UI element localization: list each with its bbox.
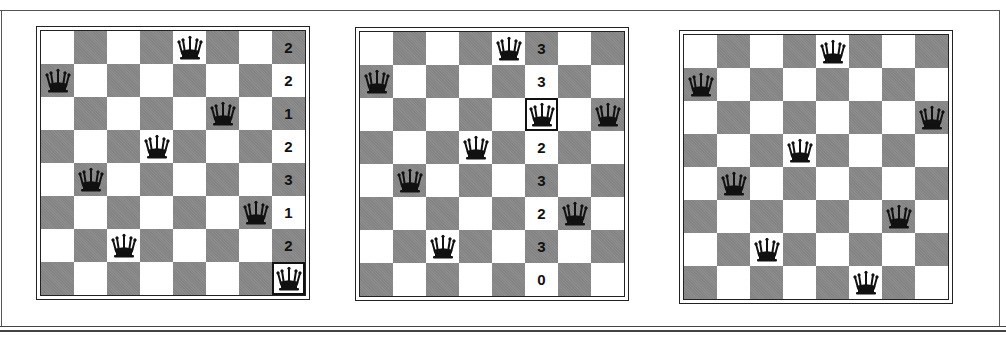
board-square [882, 68, 915, 101]
board-square [107, 163, 140, 196]
board-square [41, 163, 74, 196]
queen-icon [852, 269, 880, 297]
board-square [393, 230, 426, 263]
board-square [882, 233, 915, 266]
board-square [717, 101, 750, 134]
board-square [816, 233, 849, 266]
board-square [882, 200, 915, 233]
board-square [393, 197, 426, 230]
board-square [591, 263, 624, 296]
board-square [591, 131, 624, 164]
board-square [140, 262, 173, 295]
board-square [173, 196, 206, 229]
board-square [783, 167, 816, 200]
board-square [459, 32, 492, 65]
conflict-count: 3 [284, 171, 292, 188]
queen-icon [462, 134, 490, 162]
board-square [558, 131, 591, 164]
board-square [173, 64, 206, 97]
board-square [206, 163, 239, 196]
board-square [41, 64, 74, 97]
board-square [393, 98, 426, 131]
board-square [849, 134, 882, 167]
queen-icon [176, 34, 204, 62]
board-square [140, 97, 173, 130]
board-square: 2 [525, 131, 558, 164]
conflict-count: 2 [537, 205, 545, 222]
conflict-count: 2 [284, 138, 292, 155]
board-square [140, 130, 173, 163]
queen-icon [495, 35, 523, 63]
board-square [816, 101, 849, 134]
board-square [74, 97, 107, 130]
conflict-count: 2 [537, 139, 545, 156]
board-square [558, 65, 591, 98]
board-square [816, 68, 849, 101]
board-square [459, 65, 492, 98]
board-square [591, 164, 624, 197]
conflict-count: 1 [284, 105, 292, 122]
board-square [206, 196, 239, 229]
conflict-count: 3 [537, 238, 545, 255]
board-square [426, 197, 459, 230]
board-square [107, 229, 140, 262]
board-square [492, 263, 525, 296]
board-square [107, 64, 140, 97]
board-square [882, 134, 915, 167]
board-square [717, 167, 750, 200]
board-square [717, 233, 750, 266]
board-square [591, 98, 624, 131]
queen-icon [918, 104, 946, 132]
board-square [849, 233, 882, 266]
board-square: 3 [272, 163, 305, 196]
board-square [173, 97, 206, 130]
board-square [816, 35, 849, 68]
board-square [915, 134, 948, 167]
board-square [107, 31, 140, 64]
board-square [750, 68, 783, 101]
board-square [816, 134, 849, 167]
board-square [492, 32, 525, 65]
board-square [426, 98, 459, 131]
board-square [684, 233, 717, 266]
highlighted-square [272, 262, 305, 295]
board-square [74, 163, 107, 196]
board-square [915, 167, 948, 200]
chessboard-2: 3323230 [355, 27, 629, 301]
board-square: 2 [525, 197, 558, 230]
board-square [74, 31, 107, 64]
board-square [173, 31, 206, 64]
board-square [750, 167, 783, 200]
board-square: 3 [525, 32, 558, 65]
board-square [816, 200, 849, 233]
board-square [140, 64, 173, 97]
chessboard-grid: 3323230 [359, 31, 625, 297]
queen-icon [753, 236, 781, 264]
board-square [140, 31, 173, 64]
figure-frame-top [0, 10, 1000, 11]
board-square [558, 32, 591, 65]
board-square [107, 262, 140, 295]
queen-icon [786, 137, 814, 165]
board-square [360, 263, 393, 296]
board-square [426, 65, 459, 98]
board-square [849, 101, 882, 134]
board-square [426, 263, 459, 296]
conflict-count: 1 [284, 204, 292, 221]
board-square [915, 35, 948, 68]
board-square [74, 229, 107, 262]
board-square [558, 98, 591, 131]
board-square: 2 [272, 31, 305, 64]
board-square [41, 262, 74, 295]
board-square [750, 200, 783, 233]
board-square [107, 97, 140, 130]
board-square [849, 68, 882, 101]
queen-icon [885, 203, 913, 231]
board-square [558, 230, 591, 263]
queen-icon [429, 233, 457, 261]
board-square: 0 [525, 263, 558, 296]
board-square [393, 164, 426, 197]
board-square [173, 262, 206, 295]
board-square [816, 167, 849, 200]
board-square [783, 35, 816, 68]
